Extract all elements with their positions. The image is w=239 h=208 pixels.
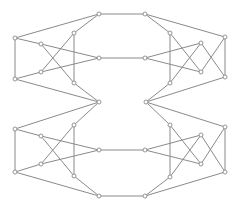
graph-node (223, 75, 227, 79)
graph-node (199, 70, 203, 74)
graph-node (199, 162, 203, 166)
graph-edge (15, 129, 41, 136)
graph-node (72, 31, 76, 35)
graph-node (143, 56, 147, 60)
graph-node (72, 174, 76, 178)
graph-edge (74, 14, 99, 33)
graph-edge (145, 177, 170, 196)
graph-edge (170, 33, 201, 72)
graph-edge (15, 72, 41, 79)
graph-node (13, 170, 17, 174)
graph-node (168, 123, 172, 127)
graph-node (97, 56, 101, 60)
graph-edge (201, 127, 225, 164)
graph-node (223, 125, 227, 129)
graph-edge (145, 150, 201, 164)
graph-node (199, 41, 203, 45)
graph-edge (145, 172, 225, 196)
graph-node (39, 162, 43, 166)
graph-node (72, 81, 76, 85)
graph-edge (15, 79, 99, 102)
graph-edge (15, 102, 99, 129)
graph-node (143, 148, 147, 152)
graph-edge (41, 136, 99, 150)
graph-edge (201, 43, 225, 77)
graph-node (168, 31, 172, 35)
graph-edge (41, 44, 74, 83)
graph-nodes (13, 12, 227, 198)
graph-node (97, 148, 101, 152)
graph-node (72, 123, 76, 127)
graph-edge (145, 58, 201, 72)
graph-edge (15, 164, 41, 172)
graph-node (223, 35, 227, 39)
graph-edge (41, 150, 99, 164)
graph-edge (41, 44, 99, 58)
graph-node (13, 127, 17, 131)
graph-node (13, 77, 17, 81)
graph-edge (201, 37, 225, 72)
graph-edge (170, 135, 201, 177)
graph-edge (146, 102, 225, 127)
graph-edge (41, 136, 74, 176)
graph-edges (15, 14, 225, 196)
graph-edge (74, 83, 99, 102)
graph-node (168, 175, 172, 179)
graph-node (97, 12, 101, 16)
graph-diagram (0, 0, 239, 208)
graph-node (168, 81, 172, 85)
graph-node (97, 100, 101, 104)
graph-edge (145, 135, 201, 150)
graph-node (143, 12, 147, 16)
graph-edge (170, 125, 201, 164)
graph-edge (201, 135, 225, 172)
graph-edge (170, 43, 201, 83)
graph-edge (41, 58, 99, 72)
graph-node (39, 134, 43, 138)
graph-edge (41, 125, 74, 164)
graph-edge (145, 14, 170, 33)
graph-node (144, 100, 148, 104)
graph-node (97, 194, 101, 198)
graph-node (39, 42, 43, 46)
graph-edge (15, 172, 99, 196)
graph-node (39, 70, 43, 74)
graph-edge (74, 102, 99, 125)
graph-node (143, 194, 147, 198)
graph-node (13, 36, 17, 40)
graph-edge (15, 14, 99, 38)
graph-node (199, 133, 203, 137)
graph-edge (146, 77, 225, 102)
graph-edge (15, 38, 41, 44)
graph-edge (146, 83, 170, 102)
graph-edge (145, 14, 225, 37)
graph-node (223, 170, 227, 174)
graph-edge (74, 176, 99, 196)
graph-edge (145, 43, 201, 58)
graph-edge (41, 33, 74, 72)
